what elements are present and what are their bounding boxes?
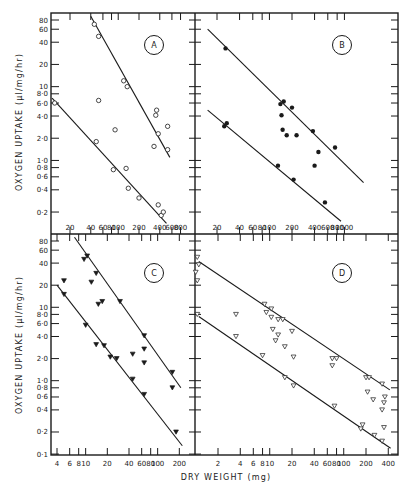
open-triangle-point: [291, 384, 296, 388]
y-tick-label: 8·0: [37, 90, 48, 98]
open-triangle-point: [196, 263, 201, 267]
x-tick-label: 6: [67, 460, 72, 468]
open-triangle-point: [382, 426, 387, 430]
open-triangle-point: [365, 390, 370, 394]
x-tick-label: 10: [81, 460, 90, 468]
x-tick-label: 40: [125, 460, 134, 468]
x-tick-label: 100: [337, 460, 350, 468]
filled-triangle-point: [142, 334, 147, 338]
filled-triangle-point: [130, 352, 135, 356]
open-circle-point: [165, 124, 169, 128]
x-tick-label: 20: [103, 460, 112, 468]
open-circle-point: [165, 147, 169, 151]
panel-letter: D: [339, 269, 345, 278]
open-circle-point: [96, 34, 100, 38]
y-tick-label: 4·0: [37, 113, 48, 121]
axis-tick-labels: 204060801002004006008000·20·40·60·81·02·…: [37, 17, 395, 469]
filled-circle-point: [225, 121, 229, 125]
open-triangle-point: [330, 357, 335, 361]
filled-circle-point: [311, 129, 315, 133]
filled-circle-point: [323, 200, 327, 204]
y-tick-label: 2·0: [37, 355, 48, 363]
open-circle-point: [154, 108, 158, 112]
y-tick-label: 1·0: [37, 377, 48, 385]
x-tick-label: 400: [382, 460, 395, 468]
y-tick-label: 0·1: [37, 451, 48, 459]
open-circle-point: [94, 139, 98, 143]
y-tick-label: 60: [39, 26, 48, 34]
filled-circle-point: [223, 46, 227, 50]
x-tick-label: 100: [263, 224, 276, 232]
y-tick-label: 0·6: [37, 393, 49, 401]
filled-triangle-point: [108, 355, 113, 359]
open-triangle-point: [330, 364, 335, 368]
x-tick-label: 200: [285, 224, 298, 232]
open-circle-point: [137, 196, 141, 200]
open-circle-point: [156, 132, 160, 136]
open-triangle-point: [291, 355, 296, 359]
open-triangle-point: [382, 395, 387, 399]
open-triangle-point: [193, 270, 198, 274]
x-tick-label: 2: [216, 460, 220, 468]
filled-triangle-point: [94, 271, 99, 275]
open-circle-point: [92, 22, 96, 26]
filled-triangle-point: [170, 386, 175, 390]
x-tick-label: 40: [86, 224, 95, 232]
y-tick-label: 1·0: [37, 157, 48, 165]
y-tick-label: 0·4: [37, 406, 49, 414]
filled-circle-point: [333, 145, 337, 149]
open-triangle-point: [269, 315, 274, 319]
y-tick-label: 10: [39, 304, 48, 312]
open-triangle-point: [276, 318, 281, 322]
filled-triangle-point: [83, 323, 88, 327]
y-tick-label: 0·2: [37, 428, 48, 436]
open-triangle-point: [334, 357, 339, 361]
open-circle-point: [52, 101, 56, 105]
open-triangle-point: [360, 423, 365, 427]
x-tick-label: 60: [98, 224, 107, 232]
y-tick-label: 2·0: [37, 135, 48, 143]
filled-triangle-point: [62, 279, 67, 283]
panel-letter: A: [151, 41, 157, 50]
open-triangle-point: [380, 408, 385, 412]
x-tick-label: 4: [55, 460, 60, 468]
y-tick-label: 6·0: [37, 100, 48, 108]
figure: 204060801002004006008000·20·40·60·81·02·…: [0, 0, 409, 487]
filled-circle-point: [279, 113, 283, 117]
fit-line: [52, 98, 166, 223]
y-tick-label: 60: [39, 247, 48, 255]
filled-circle-point: [276, 163, 280, 167]
y-tick-label: 0·8: [37, 164, 48, 172]
open-circle-point: [111, 167, 115, 171]
open-triangle-point: [270, 327, 275, 331]
x-tick-label: 10: [265, 460, 274, 468]
filled-circle-point: [291, 177, 295, 181]
open-circle-point: [96, 98, 100, 102]
open-triangle-point: [234, 312, 239, 316]
open-circle-point: [121, 79, 125, 83]
y-axis-title-top: OXYGEN UPTAKE (µl/mg/hr): [15, 53, 24, 191]
y-tick-label: 10: [39, 83, 48, 91]
open-triangle-point: [234, 334, 239, 338]
open-circle-point: [113, 128, 117, 132]
y-tick-label: 20: [39, 61, 48, 69]
y-tick-label: 4·0: [37, 333, 48, 341]
open-triangle-point: [264, 310, 269, 314]
y-tick-label: 6·0: [37, 320, 48, 328]
open-circle-point: [156, 203, 160, 207]
panel-letter: C: [151, 269, 157, 278]
filled-triangle-point: [89, 280, 94, 284]
y-tick-label: 8·0: [37, 311, 48, 319]
filled-triangle-point: [142, 361, 147, 365]
filled-triangle-point: [174, 430, 179, 434]
filled-circle-point: [294, 133, 298, 137]
x-tick-label: 400: [308, 224, 321, 232]
x-tick-label: 20: [288, 460, 297, 468]
open-circle-point: [161, 210, 165, 214]
open-circle-point: [152, 144, 156, 148]
y-tick-label: 0·8: [37, 384, 48, 392]
x-tick-label: 8: [260, 460, 264, 468]
filled-triangle-point: [142, 347, 147, 351]
open-triangle-point: [382, 401, 387, 405]
panel-labels: ABCD: [145, 36, 352, 283]
